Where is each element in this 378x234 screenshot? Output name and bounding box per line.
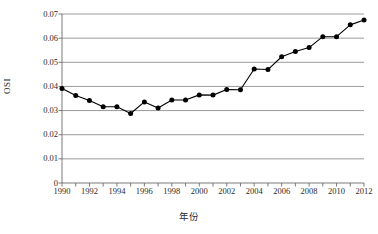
data-point-marker <box>114 104 119 109</box>
data-point-marker <box>293 49 298 54</box>
data-point-marker <box>87 98 92 103</box>
chart-container: OSI 年份 00.010.020.030.040.050.060.07 199… <box>0 0 378 234</box>
data-point-marker <box>279 54 284 59</box>
data-point-marker <box>348 22 353 27</box>
data-point-marker <box>197 92 202 97</box>
data-point-marker <box>307 45 312 50</box>
data-point-marker <box>224 87 229 92</box>
plot-area <box>0 0 378 234</box>
data-point-marker <box>73 93 78 98</box>
data-point-marker <box>169 97 174 102</box>
data-point-marker <box>101 104 106 109</box>
data-point-marker <box>183 97 188 102</box>
data-point-marker <box>320 34 325 39</box>
data-point-marker <box>60 86 65 91</box>
data-point-marker <box>156 105 161 110</box>
data-point-marker <box>252 67 257 72</box>
data-point-marker <box>128 111 133 116</box>
data-point-marker <box>142 99 147 104</box>
data-point-marker <box>238 87 243 92</box>
series-line <box>62 20 364 113</box>
data-point-marker <box>362 18 367 23</box>
data-point-marker <box>265 67 270 72</box>
data-point-marker <box>334 34 339 39</box>
data-point-marker <box>211 93 216 98</box>
